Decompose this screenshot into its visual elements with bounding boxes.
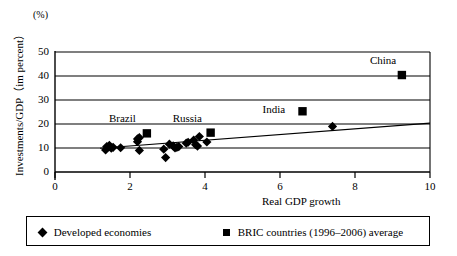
scatter-chart: (%) Investments/GDP（im percent） Real GDP…	[0, 0, 457, 256]
point-label-russia: Russia	[173, 113, 202, 124]
point-label-china: China	[370, 55, 396, 66]
data-point-diamond	[328, 122, 337, 131]
data-point-diamond	[202, 137, 211, 146]
x-axis-tick-label: 4	[195, 181, 215, 192]
data-point-square	[143, 129, 151, 137]
x-axis-tick-label: 2	[120, 181, 140, 192]
square-marker-icon	[223, 229, 230, 236]
data-point-square	[206, 128, 214, 136]
data-point-square	[398, 71, 406, 79]
x-axis-tick-label: 0	[45, 181, 65, 192]
legend-label: BRIC countries (1996–2006) average	[238, 226, 403, 238]
legend-item-bric-countries: BRIC countries (1996–2006) average	[223, 224, 403, 240]
legend-item-developed-economies: Developed economies	[39, 224, 151, 240]
data-point-square	[298, 107, 306, 115]
y-axis-tick-label: 20	[27, 118, 49, 129]
y-axis-tick-label: 40	[27, 70, 49, 81]
x-axis-tick-label: 6	[270, 181, 290, 192]
y-axis-tick-label: 10	[27, 142, 49, 153]
y-axis-tick-label: 30	[27, 94, 49, 105]
diamond-marker-icon	[38, 228, 48, 238]
data-point-diamond	[161, 153, 170, 162]
point-label-india: India	[263, 104, 286, 115]
y-axis-tick-label: 0	[27, 166, 49, 177]
data-point-diamond	[116, 143, 125, 152]
y-axis-tick-label: 50	[27, 46, 49, 57]
x-axis-tick-label: 8	[345, 181, 365, 192]
x-axis-tick-label: 10	[420, 181, 440, 192]
data-point-diamond	[135, 146, 144, 155]
point-label-brazil: Brazil	[109, 113, 136, 124]
chart-legend: Developed economies BRIC countries (1996…	[26, 216, 430, 246]
legend-label: Developed economies	[54, 226, 151, 238]
